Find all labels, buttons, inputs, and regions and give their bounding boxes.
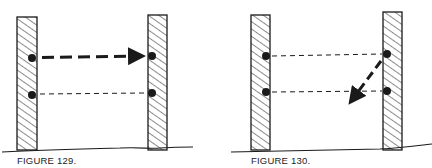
thin-dashed-line xyxy=(40,93,145,94)
thin-dashed-line-upper xyxy=(272,54,382,56)
upper-right-dot xyxy=(148,52,156,60)
upper-left-dot xyxy=(262,52,270,60)
left-post xyxy=(17,17,37,150)
left-post xyxy=(251,15,270,150)
figure-129-caption: FIGURE 129. xyxy=(17,155,76,166)
lower-left-dot xyxy=(262,88,270,96)
diagram-canvas xyxy=(0,0,432,168)
upper-right-dot xyxy=(383,50,391,58)
figure-130-caption: FIGURE 130. xyxy=(251,155,310,166)
thick-dashed-arrow xyxy=(352,61,381,100)
lower-left-dot xyxy=(28,91,36,99)
figure-130 xyxy=(231,12,432,152)
right-post xyxy=(148,15,167,150)
lower-right-dot xyxy=(383,87,391,95)
thin-dashed-line-lower xyxy=(272,91,382,92)
thick-dashed-arrow xyxy=(42,56,140,58)
lower-right-dot xyxy=(148,89,156,97)
right-post xyxy=(383,12,402,150)
figure-129 xyxy=(2,15,193,152)
upper-left-dot xyxy=(28,54,36,62)
